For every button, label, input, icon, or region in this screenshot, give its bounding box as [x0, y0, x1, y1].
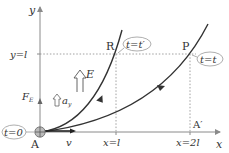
- arrowhead-shallow-icon: [157, 85, 165, 91]
- y-equals-l-label: y=l: [9, 49, 27, 60]
- origin-label: A: [30, 138, 40, 151]
- point-P-label: P: [182, 40, 190, 53]
- x-axis-label: x: [216, 138, 223, 151]
- x-equals-2l-label: x=2l: [176, 137, 200, 148]
- force-label: FE: [21, 91, 34, 103]
- particle-icon: [35, 127, 45, 137]
- point-A-prime-label: A′: [192, 119, 203, 130]
- y-axis-label: y: [28, 4, 36, 17]
- point-R-label: R: [106, 40, 115, 53]
- x-equals-l-label: x=l: [103, 137, 120, 148]
- velocity-label: v: [66, 137, 72, 148]
- field-E-label: E: [85, 68, 94, 81]
- force-arrow-icon: [38, 98, 43, 104]
- motion-diagram: y x y=l x=l x=2l R P A′ A t=0 t=t′ t=t E…: [0, 0, 229, 153]
- field-arrow-icon: [74, 70, 86, 92]
- time-tag-R-text: t=t′: [126, 39, 145, 50]
- accel-arrow-icon: [53, 94, 61, 106]
- velocity-arrowhead-icon: [70, 129, 76, 134]
- arrowhead-steep-icon: [96, 94, 105, 103]
- reference-lines: [40, 54, 196, 132]
- time-tag-origin-text: t=0: [4, 127, 23, 138]
- time-tag-P-text: t=t: [200, 54, 217, 65]
- accel-label: ay: [62, 95, 72, 108]
